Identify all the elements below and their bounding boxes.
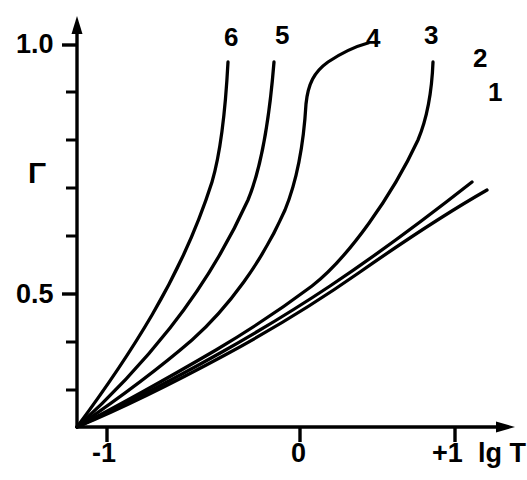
y-tick-marks	[62, 45, 77, 390]
curves-group	[77, 43, 487, 427]
y-axis-arrowhead	[72, 16, 83, 34]
x-axis-title: lg T	[478, 440, 526, 467]
curve-label-2: 2	[473, 45, 487, 71]
chart-figure: 1.0 0.5 Γ -1 0 +1 lg T 6 5 4 3 2 1	[0, 0, 527, 480]
axes-group	[72, 16, 516, 433]
x-axis-tick-label-zero: 0	[291, 440, 306, 467]
curve-label-1: 1	[488, 79, 502, 105]
curve-4	[77, 43, 368, 427]
curve-label-4: 4	[366, 25, 380, 51]
curve-2	[77, 182, 472, 427]
curve-label-6: 6	[224, 24, 238, 50]
y-axis-tick-label-1.0: 1.0	[16, 31, 54, 58]
x-axis-tick-label-plus1: +1	[432, 440, 463, 467]
x-axis-tick-label-minus1: -1	[92, 440, 116, 467]
curve-label-5: 5	[275, 22, 289, 48]
x-axis-arrowhead	[496, 422, 515, 433]
plot-area	[0, 0, 527, 480]
curve-label-3: 3	[424, 22, 438, 48]
x-tick-marks	[107, 427, 455, 442]
y-axis-title: Γ	[28, 158, 46, 188]
y-axis-tick-label-0.5: 0.5	[16, 281, 54, 308]
